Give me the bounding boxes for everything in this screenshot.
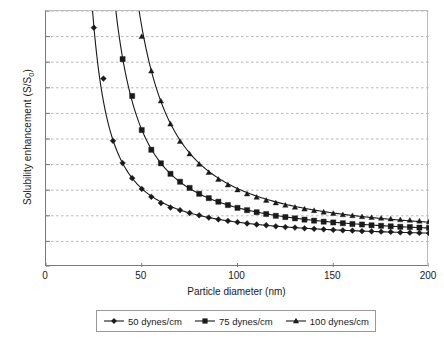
x-axis-title: Particle diameter (nm) xyxy=(45,286,428,297)
data-point-marker xyxy=(196,212,202,218)
series-line xyxy=(130,11,429,222)
data-point-marker xyxy=(149,68,154,73)
data-point-marker xyxy=(149,147,154,152)
data-point-marker xyxy=(283,214,288,219)
legend-label: 75 dynes/cm xyxy=(219,316,273,327)
data-point-marker xyxy=(398,224,403,229)
plot-canvas xyxy=(46,11,429,267)
x-tick-label: 200 xyxy=(408,270,444,281)
data-point-marker xyxy=(312,218,317,223)
data-point-marker xyxy=(407,230,413,236)
data-point-marker xyxy=(388,229,394,235)
legend-marker-triangle-icon xyxy=(285,316,307,326)
x-tick-label: 0 xyxy=(25,270,65,281)
data-point-marker xyxy=(282,224,288,230)
data-point-marker xyxy=(110,138,116,144)
data-point-marker xyxy=(388,224,393,229)
data-point-marker xyxy=(225,218,231,224)
x-tick-label: 150 xyxy=(312,270,352,281)
data-point-marker xyxy=(187,185,192,190)
data-point-marker xyxy=(101,76,107,82)
data-point-marker xyxy=(120,160,126,166)
data-point-marker xyxy=(397,230,403,236)
data-point-marker xyxy=(426,219,429,224)
data-point-marker xyxy=(302,217,307,222)
data-point-marker xyxy=(177,179,182,184)
data-point-marker xyxy=(244,208,249,213)
data-point-marker xyxy=(340,227,346,233)
data-point-marker xyxy=(311,226,317,232)
data-point-marker xyxy=(91,25,97,31)
data-point-marker xyxy=(263,222,269,228)
legend-item: 75 dynes/cm xyxy=(194,316,273,327)
series-square xyxy=(109,11,429,230)
data-point-marker xyxy=(216,199,221,204)
data-point-marker xyxy=(331,220,336,225)
legend-item: 100 dynes/cm xyxy=(285,316,369,327)
data-point-marker xyxy=(187,151,192,156)
data-point-marker xyxy=(426,225,429,230)
data-point-marker xyxy=(264,211,269,216)
legend-label: 50 dynes/cm xyxy=(128,316,182,327)
data-point-marker xyxy=(302,225,308,231)
data-point-marker xyxy=(235,205,240,210)
data-point-marker xyxy=(426,230,429,236)
data-point-marker xyxy=(359,228,365,234)
data-point-marker xyxy=(292,216,297,221)
data-point-marker xyxy=(168,121,173,126)
plot-area xyxy=(45,10,428,266)
data-point-marker xyxy=(369,229,375,235)
x-tick-label: 100 xyxy=(217,270,257,281)
data-point-marker xyxy=(215,216,221,222)
chart-figure: Solubility enhancement (S/S0) 0123456789… xyxy=(0,0,444,339)
y-axis-title: Solubility enhancement (S/S0) xyxy=(22,22,36,252)
legend-label: 100 dynes/cm xyxy=(310,316,369,327)
data-point-marker xyxy=(379,223,384,228)
data-point-marker xyxy=(407,224,412,229)
data-point-marker xyxy=(350,228,356,234)
data-point-marker xyxy=(369,223,374,228)
y-axis-title-tail: ) xyxy=(22,69,33,72)
legend-marker-diamond-icon xyxy=(103,316,125,326)
legend: 50 dynes/cm75 dynes/cm100 dynes/cm xyxy=(96,310,376,332)
data-point-marker xyxy=(292,225,298,231)
data-point-marker xyxy=(139,127,144,132)
series-triangle xyxy=(130,11,429,224)
legend-marker-square-icon xyxy=(194,316,216,326)
data-point-marker xyxy=(340,221,345,226)
data-point-marker xyxy=(254,222,260,228)
data-point-marker xyxy=(407,218,412,223)
data-point-marker xyxy=(187,210,193,216)
data-point-marker xyxy=(273,213,278,218)
data-point-marker xyxy=(197,191,202,196)
data-point-marker xyxy=(130,93,135,98)
legend-item: 50 dynes/cm xyxy=(103,316,182,327)
data-point-marker xyxy=(225,202,230,207)
data-point-marker xyxy=(273,223,279,229)
data-point-marker xyxy=(177,207,183,213)
series-line xyxy=(109,11,429,228)
data-point-marker xyxy=(235,219,241,225)
data-point-marker xyxy=(359,222,364,227)
data-point-marker xyxy=(244,221,250,227)
data-point-marker xyxy=(158,98,163,103)
data-point-marker xyxy=(120,57,125,62)
data-point-marker xyxy=(206,196,211,201)
data-point-marker xyxy=(321,219,326,224)
y-axis-title-subscript: 0 xyxy=(27,72,36,76)
data-point-marker xyxy=(168,171,173,176)
x-tick-label: 50 xyxy=(121,270,161,281)
data-point-marker xyxy=(330,227,336,233)
data-point-marker xyxy=(417,218,422,223)
data-point-marker xyxy=(417,225,422,230)
data-point-marker xyxy=(196,161,201,166)
data-point-marker xyxy=(417,230,423,236)
data-point-marker xyxy=(158,161,163,166)
data-point-marker xyxy=(350,221,355,226)
data-point-marker xyxy=(378,229,384,235)
data-point-marker xyxy=(321,226,327,232)
y-axis-title-text: Solubility enhancement (S/S xyxy=(22,77,33,205)
data-point-marker xyxy=(254,210,259,215)
